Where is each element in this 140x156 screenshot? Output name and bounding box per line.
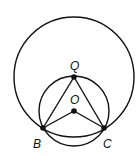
- label-q: Q: [70, 59, 79, 73]
- point-q: [71, 74, 77, 80]
- point-c: [101, 125, 107, 131]
- label-o: O: [70, 93, 79, 107]
- point-o: [71, 108, 77, 114]
- geometry-diagram: Q O B C: [0, 0, 140, 156]
- point-b: [40, 125, 46, 131]
- label-b: B: [33, 137, 41, 151]
- label-c: C: [103, 137, 112, 151]
